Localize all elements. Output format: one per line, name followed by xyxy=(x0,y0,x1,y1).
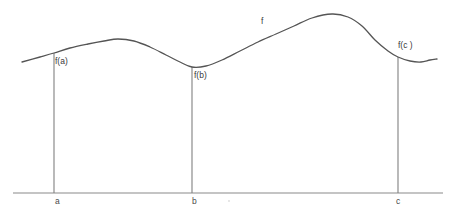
function-curve xyxy=(22,14,437,67)
axis-label-b: b xyxy=(192,197,197,206)
label-f-of-b: f(b) xyxy=(194,71,207,80)
label-curve-f: f xyxy=(261,17,263,26)
axis-label-c: c xyxy=(396,197,400,206)
stray-speck xyxy=(228,200,230,202)
axis-label-a: a xyxy=(55,197,60,206)
label-f-of-c: f(c ) xyxy=(398,41,413,50)
function-graph-figure: f(a) f(b) f(c ) f a b c xyxy=(0,0,456,221)
label-f-of-a: f(a) xyxy=(55,57,68,66)
graph-canvas xyxy=(0,0,456,221)
